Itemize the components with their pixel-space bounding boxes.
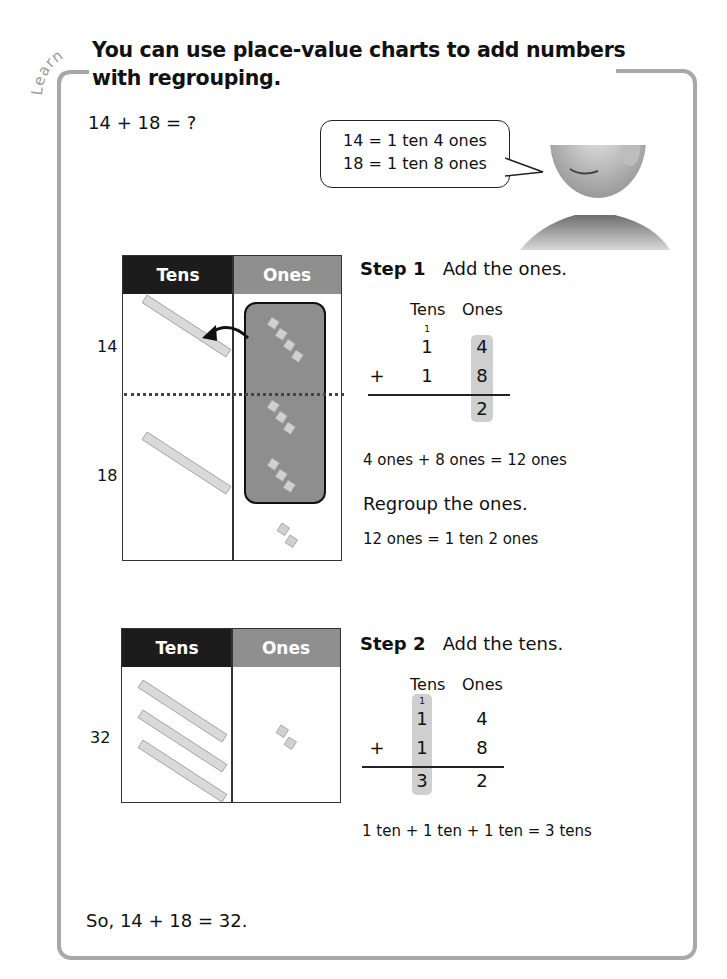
step1-tens-header: Tens: [410, 300, 445, 319]
step2-ones-header: Ones: [462, 675, 503, 694]
step1-label: Step 1: [360, 258, 425, 279]
step1-note-1: 4 ones + 8 ones = 12 ones: [363, 451, 567, 469]
bubble-line-1: 14 = 1 ten 4 ones: [343, 129, 509, 152]
base-ten-blocks-1-icon: [122, 255, 342, 561]
row-label-32: 32: [90, 728, 110, 747]
step2-sum-tens: 3: [412, 770, 432, 791]
step1-addend1-tens: 1: [417, 336, 437, 357]
step2-instruction: Add the tens.: [443, 633, 563, 654]
title-line-1: You can use place-value charts to add nu…: [92, 36, 652, 64]
step1-plus: +: [367, 365, 387, 386]
step1-heading: Step 1 Add the ones.: [360, 258, 567, 279]
step2-addend1-tens: 1: [412, 708, 432, 729]
base-ten-blocks-2-icon: [121, 628, 341, 803]
title-line-2: with regrouping.: [92, 64, 652, 92]
bubble-line-2: 18 = 1 ten 8 ones: [343, 152, 509, 175]
step1-addend1-ones: 4: [472, 336, 492, 357]
step2-sum-line: [362, 766, 504, 768]
step1-addend2-tens: 1: [417, 365, 437, 386]
step2-sum-ones: 2: [472, 770, 492, 791]
problem-equation: 14 + 18 = ?: [88, 112, 196, 133]
step2-heading: Step 2 Add the tens.: [360, 633, 563, 654]
step1-note-3: 12 ones = 1 ten 2 ones: [363, 530, 538, 548]
step2-carry: 1: [412, 696, 432, 706]
step1-sum-line: [368, 394, 510, 396]
step2-addend2-ones: 8: [472, 737, 492, 758]
step2-plus: +: [367, 737, 387, 758]
step2-note-1: 1 ten + 1 ten + 1 ten = 3 tens: [362, 822, 592, 840]
row-label-18: 18: [97, 466, 117, 485]
speech-bubble: 14 = 1 ten 4 ones 18 = 1 ten 8 ones: [320, 120, 510, 188]
step1-carry: 1: [417, 324, 437, 334]
step1-sum-ones: 2: [472, 398, 492, 419]
row-label-14: 14: [97, 337, 117, 356]
step2-addend1-ones: 4: [472, 708, 492, 729]
step1-note-2: Regroup the ones.: [363, 493, 528, 514]
boy-photo-icon: [520, 145, 670, 250]
frame-corner-icon: [55, 66, 95, 106]
step2-addend2-tens: 1: [412, 737, 432, 758]
step2-tens-header: Tens: [410, 675, 445, 694]
step2-label: Step 2: [360, 633, 425, 654]
step1-instruction: Add the ones.: [443, 258, 567, 279]
lesson-title: You can use place-value charts to add nu…: [92, 36, 652, 92]
step1-addend2-ones: 8: [472, 365, 492, 386]
step1-ones-header: Ones: [462, 300, 503, 319]
conclusion: So, 14 + 18 = 32.: [86, 910, 247, 931]
